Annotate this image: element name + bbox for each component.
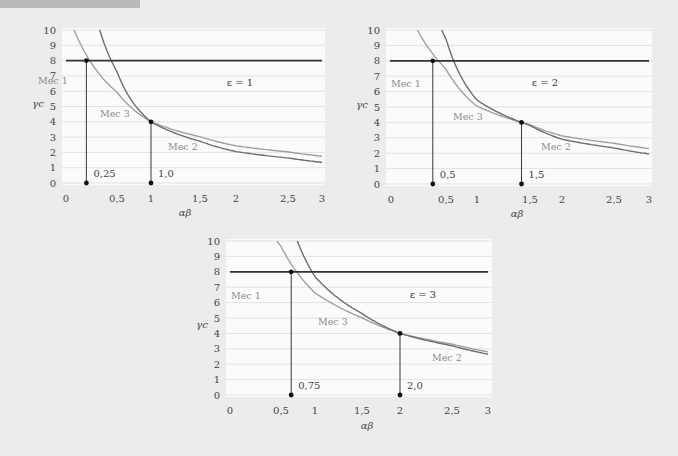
x-tick-label: 2,5	[606, 194, 622, 205]
x-tick-label: 0,5	[109, 193, 125, 204]
y-tick-label: 3	[374, 132, 380, 143]
x-tick-label: 3	[319, 193, 325, 204]
x-tick-label: 2,5	[280, 193, 296, 204]
y-tick-label: 4	[214, 328, 220, 339]
y-tick-label: 2	[50, 147, 56, 158]
y-tick-label: 0	[214, 390, 220, 401]
intersection-point	[398, 331, 403, 336]
y-tick-label: 9	[214, 251, 220, 262]
intersection-point	[84, 58, 89, 63]
y-tick-label: 1	[374, 163, 380, 174]
x-tick-label: 0,5	[438, 194, 454, 205]
y-tick-label: 9	[374, 40, 380, 51]
axis-point	[289, 393, 294, 398]
y-tick-label: 4	[374, 117, 380, 128]
mechanism-label: Mec 1	[38, 75, 68, 86]
y-tick-label: 5	[50, 101, 56, 112]
epsilon-label: ε = 3	[410, 289, 436, 300]
mechanism-label: Mec 3	[318, 316, 348, 327]
x-tick-label: 2	[559, 194, 565, 205]
y-tick-label: 8	[374, 55, 380, 66]
x-axis-label: αβ	[179, 207, 192, 218]
axis-point	[398, 393, 403, 398]
marker-value-label: 0,5	[440, 169, 456, 180]
chart-epsilon-1: 01234567891000,511,522,53γcαβ0,251,0Mec …	[32, 25, 325, 219]
marker-value-label: 0,25	[93, 168, 115, 179]
y-tick-label: 0	[374, 179, 380, 190]
x-tick-label: 1,5	[192, 193, 208, 204]
x-tick-label: 1,5	[522, 194, 538, 205]
x-tick-label: 0	[388, 194, 394, 205]
mechanism-label: Mec 3	[453, 111, 483, 122]
axis-point	[519, 182, 524, 187]
x-axis-label: αβ	[361, 420, 374, 431]
y-tick-label: 6	[374, 86, 380, 97]
intersection-point	[149, 119, 154, 124]
x-tick-label: 3	[646, 194, 652, 205]
y-tick-label: 4	[50, 116, 56, 127]
x-tick-label: 2	[233, 193, 239, 204]
y-tick-label: 1	[214, 374, 220, 385]
y-tick-label: 10	[367, 25, 380, 36]
x-tick-label: 2	[397, 405, 403, 416]
y-axis-label: γc	[196, 319, 208, 330]
y-tick-label: 2	[374, 148, 380, 159]
y-tick-label: 7	[214, 282, 220, 293]
marker-value-label: 1,0	[158, 168, 174, 179]
marker-value-label: 1,5	[529, 169, 545, 180]
y-tick-label: 8	[214, 266, 220, 277]
x-tick-label: 0	[227, 405, 233, 416]
marker-value-label: 0,75	[298, 380, 320, 391]
axis-point	[149, 181, 154, 186]
epsilon-label: ε = 2	[532, 77, 558, 88]
y-tick-label: 7	[374, 71, 380, 82]
chart-epsilon-3: 01234567891000,511,522,53γcαβ0,752,0Mec …	[196, 236, 492, 432]
x-tick-label: 3	[485, 405, 491, 416]
epsilon-label: ε = 1	[227, 77, 253, 88]
y-tick-label: 8	[50, 55, 56, 66]
mechanism-label: Mec 2	[541, 141, 571, 152]
y-axis-label: γc	[32, 98, 44, 109]
y-tick-label: 6	[214, 297, 220, 308]
x-tick-label: 1	[474, 194, 480, 205]
marker-value-label: 2,0	[407, 380, 423, 391]
x-tick-label: 1	[148, 193, 154, 204]
x-tick-label: 0,5	[273, 405, 289, 416]
y-tick-label: 9	[50, 40, 56, 51]
axis-point	[430, 182, 435, 187]
y-tick-label: 5	[374, 102, 380, 113]
intersection-point	[430, 58, 435, 63]
y-tick-label: 3	[214, 343, 220, 354]
mechanism-label: Mec 1	[231, 290, 261, 301]
x-tick-label: 0	[63, 193, 69, 204]
y-tick-label: 6	[50, 86, 56, 97]
intersection-point	[519, 120, 524, 125]
mechanism-label: Mec 1	[391, 78, 421, 89]
x-axis-label: αβ	[511, 208, 524, 219]
axis-point	[84, 181, 89, 186]
intersection-point	[289, 269, 294, 274]
x-tick-label: 1	[312, 405, 318, 416]
y-tick-label: 1	[50, 162, 56, 173]
y-tick-label: 5	[214, 313, 220, 324]
y-tick-label: 2	[214, 359, 220, 370]
mechanism-label: Mec 3	[100, 108, 130, 119]
y-tick-label: 3	[50, 132, 56, 143]
mechanism-label: Mec 2	[432, 352, 462, 363]
charts-canvas: 01234567891000,511,522,53γcαβ0,251,0Mec …	[0, 0, 678, 456]
y-tick-label: 0	[50, 178, 56, 189]
x-tick-label: 2,5	[444, 405, 460, 416]
x-tick-label: 1,5	[354, 405, 370, 416]
y-axis-label: γc	[356, 99, 368, 110]
y-tick-label: 10	[207, 236, 220, 247]
chart-epsilon-2: 01234567891000,511,522,53γcαβ0,51,5Mec 1…	[356, 25, 652, 220]
mechanism-label: Mec 2	[168, 141, 198, 152]
y-tick-label: 10	[43, 25, 56, 36]
